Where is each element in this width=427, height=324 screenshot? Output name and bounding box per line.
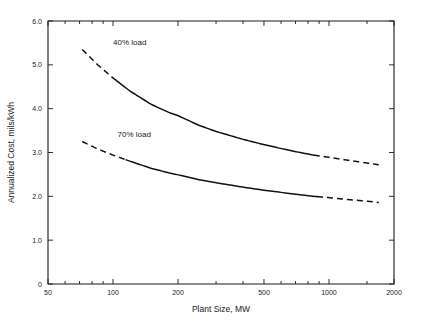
y-tick-label: 6.0 xyxy=(32,18,42,25)
x-tick-label: 2000 xyxy=(386,289,402,296)
x-tick-label: 50 xyxy=(44,289,52,296)
x-tick-label: 500 xyxy=(258,289,270,296)
chart-container: 5010020050010002000 01.02.03.04.05.06.0 … xyxy=(0,0,427,324)
y-axis-title: Annualized Cost, mils/kWh xyxy=(6,102,16,203)
y-tick-label: 2.0 xyxy=(32,193,42,200)
chart-background xyxy=(0,0,427,324)
y-tick-label: 1.0 xyxy=(32,237,42,244)
series-label: 70% load xyxy=(118,130,151,139)
y-tick-label: 0 xyxy=(38,281,42,288)
cost-vs-plant-size-chart: 5010020050010002000 01.02.03.04.05.06.0 … xyxy=(0,0,427,324)
x-tick-label: 200 xyxy=(172,289,184,296)
y-tick-label: 3.0 xyxy=(32,149,42,156)
x-tick-label: 1000 xyxy=(321,289,337,296)
y-tick-label: 4.0 xyxy=(32,105,42,112)
x-tick-label: 100 xyxy=(107,289,119,296)
series-label: 40% load xyxy=(113,38,146,47)
y-tick-label: 5.0 xyxy=(32,61,42,68)
x-axis-title: Plant Size, MW xyxy=(192,304,250,314)
